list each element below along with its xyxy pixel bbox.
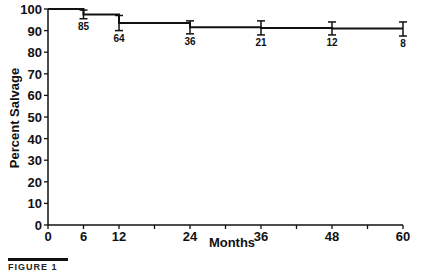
y-axis-title: Percent Salvage bbox=[7, 68, 22, 168]
plot-area: 85643621128 bbox=[48, 9, 407, 49]
n-at-risk-label: 21 bbox=[255, 37, 267, 48]
y-tick-label: 50 bbox=[28, 110, 42, 125]
n-at-risk-label: 12 bbox=[326, 37, 338, 48]
survival-chart: 0102030405060708090100061224364860 85643… bbox=[0, 0, 424, 270]
x-tick-label: 24 bbox=[183, 229, 198, 244]
figure-caption: FIGURE 1 bbox=[8, 262, 58, 270]
n-at-risk-label: 64 bbox=[113, 33, 125, 44]
n-at-risk-label: 8 bbox=[400, 38, 406, 49]
x-tick-label: 6 bbox=[80, 229, 87, 244]
axes: 0102030405060708090100061224364860 bbox=[20, 2, 410, 244]
x-tick-label: 0 bbox=[44, 229, 51, 244]
survival-step-line bbox=[48, 9, 403, 28]
y-tick-label: 20 bbox=[28, 175, 42, 190]
y-tick-label: 100 bbox=[20, 2, 42, 17]
y-tick-label: 0 bbox=[35, 218, 42, 233]
y-tick-label: 10 bbox=[28, 196, 42, 211]
caption-rule bbox=[8, 258, 68, 261]
y-tick-label: 30 bbox=[28, 153, 42, 168]
x-tick-label: 48 bbox=[325, 229, 339, 244]
x-tick-label: 12 bbox=[112, 229, 126, 244]
n-at-risk-label: 36 bbox=[184, 36, 196, 47]
y-tick-label: 60 bbox=[28, 88, 42, 103]
y-tick-label: 70 bbox=[28, 67, 42, 82]
y-tick-label: 90 bbox=[28, 24, 42, 39]
y-tick-label: 80 bbox=[28, 45, 42, 60]
y-tick-label: 40 bbox=[28, 132, 42, 147]
n-at-risk-label: 85 bbox=[78, 21, 90, 32]
x-axis-title: Months bbox=[209, 235, 255, 250]
x-tick-label: 60 bbox=[396, 229, 410, 244]
x-tick-label: 36 bbox=[254, 229, 268, 244]
